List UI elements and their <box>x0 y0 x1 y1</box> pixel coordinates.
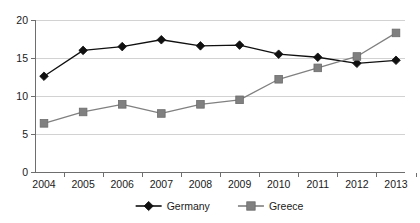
data-point-greece <box>197 101 205 109</box>
data-point-greece <box>314 64 322 72</box>
data-point-germany <box>40 72 49 81</box>
chart-legend: GermanyGreece <box>136 200 304 212</box>
x-tick-label: 2009 <box>228 178 252 190</box>
data-point-germany <box>274 50 283 59</box>
data-point-germany <box>157 35 166 44</box>
data-point-greece <box>236 96 244 104</box>
x-tick-label: 2006 <box>111 178 135 190</box>
legend-item-greece[interactable]: Greece <box>238 200 304 212</box>
data-point-germany <box>313 53 322 62</box>
y-tick-label: 0 <box>22 166 28 178</box>
data-point-greece <box>353 53 361 61</box>
y-tick-label: 5 <box>22 128 28 140</box>
y-tick-label: 10 <box>16 90 28 102</box>
data-point-greece <box>118 101 126 109</box>
data-point-germany <box>235 41 244 50</box>
y-tick-labels: 05101520 <box>16 14 28 178</box>
legend-label-germany: Germany <box>167 200 211 212</box>
legend-item-germany[interactable]: Germany <box>136 200 211 212</box>
y-tick-label: 20 <box>16 14 28 26</box>
x-axis <box>35 173 417 177</box>
legend-marker-germany <box>144 201 153 210</box>
x-tick-label: 2004 <box>32 178 56 190</box>
x-tick-label: 2013 <box>384 178 408 190</box>
line-chart: 05101520 2004200520062007200820092010201… <box>0 0 420 223</box>
data-point-greece <box>392 29 400 37</box>
gridlines-group <box>35 21 405 135</box>
x-tick-label: 2012 <box>345 178 369 190</box>
x-tick-label: 2011 <box>306 178 329 190</box>
data-point-greece <box>40 120 48 128</box>
x-tick-label: 2010 <box>267 178 291 190</box>
data-point-germany <box>118 42 127 51</box>
data-point-germany <box>392 56 401 65</box>
series-markers-group <box>40 29 401 127</box>
y-axis <box>31 20 36 173</box>
data-point-germany <box>79 46 88 55</box>
chart-canvas: 05101520 2004200520062007200820092010201… <box>0 0 420 223</box>
data-point-greece <box>79 108 87 116</box>
data-point-greece <box>158 110 166 118</box>
series-lines-group <box>44 33 396 123</box>
series-line-greece <box>44 33 396 123</box>
legend-label-greece: Greece <box>269 200 304 212</box>
legend-marker-greece <box>247 202 255 210</box>
x-tick-label: 2007 <box>150 178 174 190</box>
x-tick-label: 2008 <box>189 178 213 190</box>
x-tick-label: 2005 <box>71 178 95 190</box>
data-point-greece <box>275 75 283 83</box>
y-tick-label: 15 <box>16 52 28 64</box>
data-point-germany <box>196 42 205 51</box>
x-tick-labels: 2004200520062007200820092010201120122013 <box>32 178 408 190</box>
